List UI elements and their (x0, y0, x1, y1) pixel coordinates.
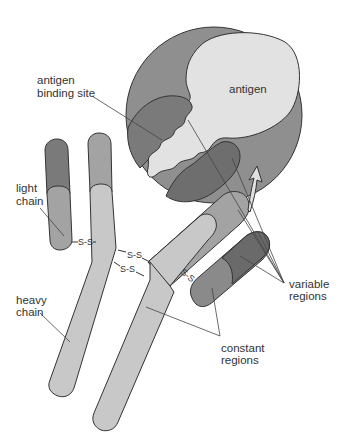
svg-text:S-S: S-S (120, 264, 135, 274)
svg-text:chain: chain (16, 306, 44, 318)
svg-text:antigen: antigen (37, 74, 75, 86)
light-chain-left (45, 139, 72, 250)
svg-text:light: light (16, 182, 38, 194)
svg-text:chain: chain (16, 195, 44, 207)
svg-text:constant: constant (221, 342, 265, 354)
disulfide-bond-2: S-S (118, 250, 150, 262)
label-light-chain: light chain (16, 182, 44, 207)
svg-text:variable: variable (289, 278, 329, 290)
svg-text:heavy: heavy (16, 294, 47, 306)
svg-text:regions: regions (289, 290, 327, 302)
svg-text:S-S: S-S (127, 250, 142, 260)
antibody-diagram: S-S S-S S-S S-S antigen antigen (0, 0, 340, 434)
svg-text:antigen: antigen (229, 83, 267, 95)
label-heavy-chain: heavy chain (16, 294, 47, 318)
disulfide-bond-1: S-S (72, 237, 96, 247)
label-antigen-binding-site: antigen binding site (37, 74, 95, 99)
svg-text:S-S: S-S (78, 237, 93, 247)
label-antigen: antigen (229, 83, 267, 95)
label-constant-regions: constant regions (221, 342, 265, 366)
svg-text:binding site: binding site (37, 87, 95, 99)
label-variable-regions: variable regions (289, 278, 329, 302)
disulfide-bond-3: S-S (114, 262, 144, 276)
svg-text:regions: regions (221, 354, 259, 366)
heavy-chain-right (93, 262, 174, 431)
